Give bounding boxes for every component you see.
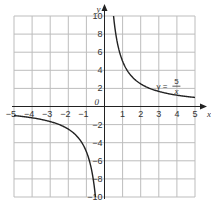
x-tick-label: −3: [42, 109, 52, 119]
curve-branch: [114, 16, 195, 97]
x-tick-label: 2: [138, 109, 143, 119]
y-tick-label: 6: [97, 47, 102, 57]
x-axis-label: x: [206, 109, 211, 119]
y-tick-label: −4: [92, 138, 102, 148]
origin-label: 0: [95, 97, 100, 107]
axes: [12, 4, 207, 199]
equation-denominator: x: [173, 86, 178, 96]
equation-numerator: 5: [174, 77, 179, 86]
y-tick-label: −6: [92, 156, 102, 166]
x-tick-label: −1: [78, 109, 88, 119]
reciprocal-function-graph: xy0−5−4−3−2−112345−10−8−6−4−2246810 y =5…: [0, 0, 211, 212]
y-tick-label: 4: [97, 65, 102, 75]
x-tick-label: −5: [6, 109, 16, 119]
y-tick-label: −2: [92, 120, 102, 130]
y-axis-arrow-icon: [102, 4, 108, 11]
x-tick-label: 4: [174, 109, 179, 119]
x-tick-label: 3: [156, 109, 161, 119]
curve-branch: [14, 116, 95, 197]
x-tick-label: 5: [192, 109, 197, 119]
x-tick-label: −2: [60, 109, 70, 119]
equation-label: y =5x: [156, 77, 180, 96]
x-tick-label: 1: [120, 109, 125, 119]
y-tick-label: 10: [92, 11, 102, 21]
y-tick-label: 8: [97, 29, 102, 39]
y-tick-label: 2: [97, 83, 102, 93]
x-axis-arrow-icon: [200, 104, 207, 110]
equation-lhs: y =: [156, 82, 167, 91]
